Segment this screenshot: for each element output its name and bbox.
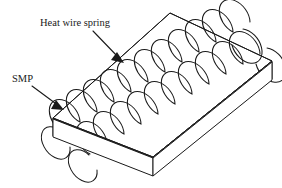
- label-heat-wire-spring: Heat wire spring: [40, 17, 111, 28]
- smp-heat-wire-spring-diagram: Heat wire spring SMP: [0, 0, 282, 188]
- figure-container: Heat wire spring SMP: [0, 0, 282, 188]
- heat-wire-spring-leader-line: [93, 31, 119, 58]
- spring-end-hook-d: [68, 150, 97, 182]
- label-smp: SMP: [12, 73, 33, 84]
